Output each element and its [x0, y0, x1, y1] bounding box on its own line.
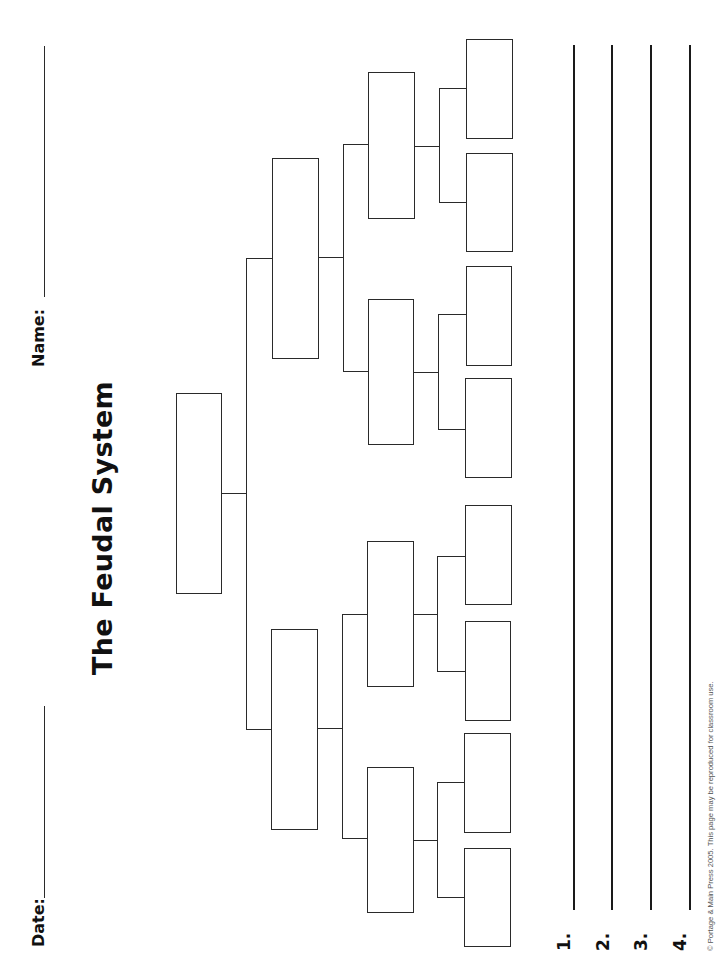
connector	[342, 838, 367, 839]
connector	[414, 146, 439, 147]
answer-number-4: 4.	[670, 933, 690, 951]
answer-line-3[interactable]	[650, 45, 652, 910]
answer-number-3: 3.	[631, 933, 651, 951]
answer-line-1[interactable]	[573, 45, 575, 910]
connector	[439, 202, 466, 203]
tree-box-level3-4[interactable]	[465, 378, 512, 478]
answer-number-1: 1.	[554, 933, 574, 951]
tree-box-level3-1[interactable]	[466, 39, 513, 139]
connector	[437, 782, 465, 783]
name-label: Name:	[29, 309, 48, 367]
tree-box-level3-6[interactable]	[465, 621, 511, 721]
connector	[438, 314, 466, 315]
date-label: Date:	[29, 898, 48, 947]
connector	[439, 88, 440, 203]
connector	[318, 257, 343, 258]
connector	[343, 144, 344, 372]
connector	[317, 728, 342, 729]
tree-box-level3-5[interactable]	[465, 505, 512, 605]
tree-box-level2-3[interactable]	[367, 541, 414, 687]
connector	[437, 556, 465, 557]
connector	[438, 429, 466, 430]
answer-number-2: 2.	[593, 933, 613, 951]
connector	[437, 782, 438, 898]
connector	[413, 840, 437, 841]
tree-box-level2-2[interactable]	[368, 299, 414, 445]
connector	[246, 258, 272, 259]
tree-box-level3-2[interactable]	[466, 153, 513, 252]
name-line[interactable]	[44, 46, 45, 297]
connector	[439, 88, 466, 89]
tree-box-level3-3[interactable]	[466, 266, 512, 366]
answer-line-2[interactable]	[611, 45, 613, 910]
tree-box-level3-7[interactable]	[464, 733, 511, 833]
connector	[246, 729, 272, 730]
copyright-notice: © Portage & Main Press 2005. This page m…	[706, 681, 715, 951]
date-line[interactable]	[44, 706, 45, 898]
tree-box-root[interactable]	[176, 393, 222, 594]
connector	[437, 671, 465, 672]
tree-box-level2-4[interactable]	[367, 767, 414, 913]
connector	[438, 314, 439, 430]
connector	[246, 258, 247, 730]
page-title: The Feudal System	[87, 381, 118, 675]
tree-box-level2-1[interactable]	[368, 72, 415, 219]
connector	[343, 144, 368, 145]
connector	[414, 372, 438, 373]
connector	[413, 614, 437, 615]
answer-line-4[interactable]	[689, 45, 691, 910]
connector	[437, 556, 438, 672]
tree-box-level3-8[interactable]	[464, 848, 511, 947]
connector	[343, 371, 368, 372]
connector	[437, 897, 465, 898]
tree-box-level1-1[interactable]	[272, 158, 319, 359]
connector	[221, 493, 246, 494]
tree-box-level1-2[interactable]	[271, 629, 318, 830]
connector	[342, 614, 367, 615]
connector	[342, 614, 343, 839]
